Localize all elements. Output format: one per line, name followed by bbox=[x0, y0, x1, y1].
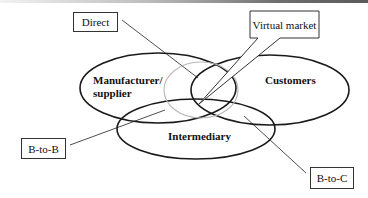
direct-connector bbox=[122, 20, 198, 78]
virtual-market-region bbox=[164, 62, 238, 118]
direct-callout: Direct bbox=[73, 12, 118, 32]
intermediary-ellipse bbox=[117, 99, 275, 159]
virtual-market-label: Virtual market bbox=[253, 19, 317, 31]
b-to-b-label: B-to-B bbox=[28, 143, 59, 155]
manufacturer-label-line2: supplier bbox=[93, 87, 162, 100]
customers-label: Customers bbox=[265, 74, 316, 87]
b-to-c-callout: B-to-C bbox=[310, 167, 354, 189]
manufacturer-label: Manufacturer/ supplier bbox=[93, 74, 162, 100]
b-to-b-callout: B-to-B bbox=[21, 138, 66, 159]
b-to-c-label: B-to-C bbox=[317, 172, 348, 184]
direct-label: Direct bbox=[82, 16, 109, 28]
virtual-market-callout: Virtual market bbox=[251, 12, 318, 37]
intermediary-label: Intermediary bbox=[168, 130, 231, 143]
manufacturer-label-line1: Manufacturer/ bbox=[93, 74, 162, 87]
